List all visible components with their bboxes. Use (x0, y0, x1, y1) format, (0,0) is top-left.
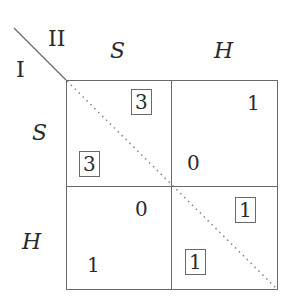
payoff-hh-player-i: 1 (185, 249, 206, 275)
grid-horizontal-divider (67, 186, 277, 187)
payoff-ss-player-i: 3 (79, 151, 100, 177)
column-strategy-s: S (110, 40, 125, 62)
grid-vertical-divider (171, 81, 172, 289)
row-strategy-h: H (22, 231, 41, 253)
payoff-hs-player-i: 1 (87, 255, 100, 275)
row-player-label: I (16, 59, 25, 81)
payoff-hs-player-ii: 0 (135, 199, 148, 219)
payoff-sh-player-i: 0 (187, 153, 200, 173)
payoff-sh-player-ii: 1 (247, 93, 260, 113)
payoff-hh-player-ii: 1 (235, 197, 256, 223)
payoff-grid: 3 3 1 0 0 1 1 1 (66, 80, 278, 290)
column-player-label: II (48, 28, 65, 50)
payoff-ss-player-ii: 3 (131, 89, 152, 115)
column-strategy-h: H (214, 40, 233, 62)
row-strategy-s: S (32, 122, 47, 144)
